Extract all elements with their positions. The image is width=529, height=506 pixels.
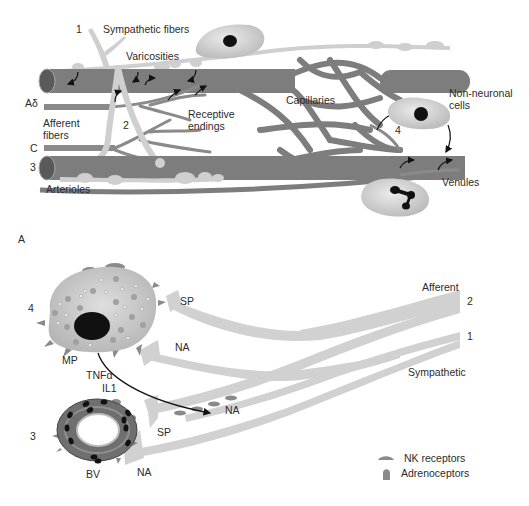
diagram-canvas: 1 Sympathetic fibers Varicosities Aδ Aff… xyxy=(0,0,529,506)
macrophage-cell xyxy=(36,263,166,358)
panel-b: 4 SP NA MP TNFα IL1 NA 3 SP BV NA Affere… xyxy=(28,263,473,480)
label-non-neuronal-1: Non-neuronal xyxy=(449,87,513,99)
label-sympathetic-fibers: Sympathetic fibers xyxy=(103,23,189,35)
label-a-delta: Aδ xyxy=(25,97,38,109)
label-na-mid: NA xyxy=(225,404,240,416)
label-afferent-fibers-1: Afferent xyxy=(43,117,80,129)
label-c-fiber: C xyxy=(30,142,38,154)
label-mp: MP xyxy=(62,354,78,366)
label-b-number-1: 1 xyxy=(467,330,473,342)
label-na-bottom: NA xyxy=(137,466,152,478)
label-receptive-endings-2: endings xyxy=(188,120,225,132)
label-afferent-fibers-2: fibers xyxy=(43,129,69,141)
nk-receptor-legend-icon xyxy=(378,456,394,460)
legend: NK receptors Adrenoceptors xyxy=(378,452,469,480)
label-venules: Venules xyxy=(442,176,479,188)
label-b-number-2: 2 xyxy=(467,295,473,307)
label-na-top: NA xyxy=(175,341,190,353)
label-number-4: 4 xyxy=(395,124,401,136)
adrenoceptor-legend-icon xyxy=(383,469,390,480)
label-number-3: 3 xyxy=(30,161,36,173)
label-number-2: 2 xyxy=(123,119,129,131)
label-non-neuronal-2: cells xyxy=(449,99,470,111)
label-number-1: 1 xyxy=(76,23,82,35)
label-arterioles: Arterioles xyxy=(46,183,90,195)
label-b-number-4: 4 xyxy=(28,302,34,314)
label-afferent: Afferent xyxy=(422,281,459,293)
panel-a: 1 Sympathetic fibers Varicosities Aδ Aff… xyxy=(18,23,513,245)
label-varicosities: Varicosities xyxy=(126,50,179,62)
label-b-number-3: 3 xyxy=(30,430,36,442)
label-capillaries: Capillaries xyxy=(286,94,335,106)
panel-letter-a: A xyxy=(18,233,25,245)
label-sp-top: SP xyxy=(180,295,194,307)
label-sp-bottom: SP xyxy=(157,426,171,438)
label-bv: BV xyxy=(86,468,100,480)
non-neuronal-cell-bottom xyxy=(361,179,429,217)
label-tnf-alpha: TNFα xyxy=(86,369,112,381)
legend-nk-receptors: NK receptors xyxy=(404,452,465,464)
legend-adrenoceptors: Adrenoceptors xyxy=(401,467,469,479)
label-sympathetic: Sympathetic xyxy=(408,366,466,378)
label-il1: IL1 xyxy=(102,382,117,394)
label-receptive-endings-1: Receptive xyxy=(188,108,235,120)
